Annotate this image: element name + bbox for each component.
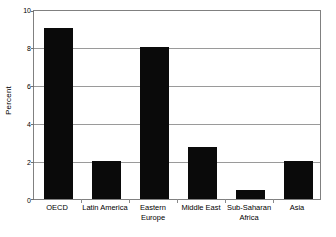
x-axis-category-label-line: Eastern [129,203,177,213]
y-tick-label: 6 [17,83,31,90]
x-axis-category-label: OECD [33,203,81,213]
x-tick-mark [273,199,274,203]
x-axis-category-label-line: Africa [225,213,273,223]
bar-oecd [44,28,73,199]
y-tick-label: 2 [17,159,31,166]
x-axis-category-label-line: Sub-Saharan [225,203,273,213]
x-axis-category-label: EasternEurope [129,203,177,222]
x-axis-category-label: Sub-SaharanAfrica [225,203,273,222]
x-axis-category-label: Asia [273,203,321,213]
y-axis-tick-labels: 10 8 6 4 2 0 [14,0,31,210]
x-tick-mark [129,199,130,203]
x-tick-mark [225,199,226,203]
y-tick-mark [31,199,34,200]
bar-eastern-europe [140,47,169,199]
y-tick-label: 0 [17,197,31,204]
x-axis-category-label-line: Middle East [177,203,225,213]
x-axis-category-label-line: Europe [129,213,177,223]
y-tick-label: 8 [17,45,31,52]
plot-area [33,10,321,200]
x-axis-category-labels: OECDLatin AmericaEasternEuropeMiddle Eas… [33,203,321,235]
bar-series [34,11,320,199]
y-axis-title-text: Percent [4,86,13,115]
x-axis-category-label-line: Asia [273,203,321,213]
x-axis-category-label: Latin America [81,203,129,213]
bar-asia [284,161,313,199]
bar-latin-america [92,161,121,199]
bar-chart-figure: Percent 10 8 6 4 2 0 OECDLatin AmericaEa… [0,0,336,237]
x-axis-category-label-line: Latin America [81,203,129,213]
x-axis-category-label-line: OECD [33,203,81,213]
bar-middle-east [188,147,217,199]
x-axis-category-label: Middle East [177,203,225,213]
x-tick-mark [177,199,178,203]
y-tick-label: 10 [17,7,31,14]
x-tick-mark [81,199,82,203]
bar-sub-saharan-africa [236,190,265,200]
y-tick-label: 4 [17,121,31,128]
